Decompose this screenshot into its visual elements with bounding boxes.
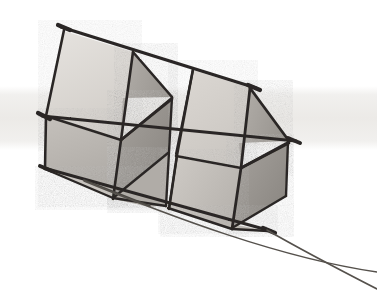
- illustration-canvas: Box kite illustration A hand-drawn two-c…: [0, 0, 377, 302]
- box-kite-drawing: Box kite illustration A hand-drawn two-c…: [0, 0, 377, 302]
